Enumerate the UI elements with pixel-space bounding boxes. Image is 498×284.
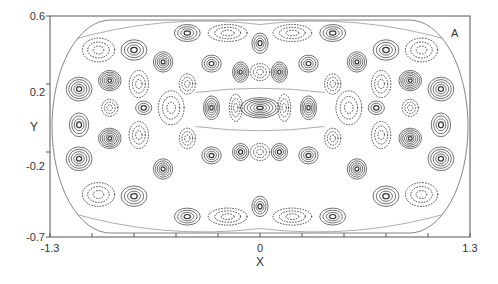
nodal-curve xyxy=(195,88,324,92)
y-tick-label-neg0.2: -0.2 xyxy=(5,161,45,172)
x-tick-label-0: 0 xyxy=(257,243,263,254)
negative-lobe xyxy=(371,70,390,97)
x-axis-ticks xyxy=(50,233,470,237)
positive-lobe xyxy=(203,96,219,120)
negative-lobe xyxy=(179,74,195,94)
nodal-curve xyxy=(66,212,454,232)
positive-lobe xyxy=(299,147,318,164)
negative-lobe xyxy=(336,91,362,125)
y-axis-title: Y xyxy=(30,121,38,133)
negative-lobe xyxy=(82,38,114,62)
negative-lobe xyxy=(129,121,148,148)
negative-lobe xyxy=(208,208,247,225)
positive-lobe xyxy=(300,96,316,120)
positive-lobe xyxy=(373,40,399,60)
positive-lobe xyxy=(153,52,172,72)
positive-lobe xyxy=(399,70,422,90)
positive-lobe xyxy=(233,144,249,161)
negative-lobe xyxy=(405,38,437,62)
negative-lobe xyxy=(325,74,341,94)
positive-lobe xyxy=(431,113,450,137)
y-axis-ticks xyxy=(46,16,50,237)
positive-lobe xyxy=(202,55,221,72)
positive-lobe xyxy=(66,147,92,171)
positive-lobe xyxy=(69,113,88,137)
positive-lobe xyxy=(347,52,366,72)
x-tick-label-neg1.3: -1.3 xyxy=(41,243,60,254)
contour-field xyxy=(66,21,454,232)
nodal-curve xyxy=(195,127,324,131)
negative-lobe xyxy=(325,128,341,148)
y-tick-label-0.2: 0.2 xyxy=(5,87,45,98)
panel-label: A xyxy=(451,28,458,39)
positive-lobe xyxy=(121,186,147,206)
positive-lobe xyxy=(98,128,121,148)
negative-lobe xyxy=(405,183,437,207)
positive-lobe xyxy=(121,40,147,60)
negative-lobe xyxy=(102,99,118,116)
positive-lobe xyxy=(428,147,454,171)
positive-lobe xyxy=(174,208,200,225)
x-axis-title: X xyxy=(256,256,264,268)
contour-figure xyxy=(0,0,498,284)
y-tick-label-neg0.7: -0.7 xyxy=(5,232,45,243)
positive-lobe xyxy=(347,159,366,179)
negative-lobe xyxy=(82,183,114,207)
negative-lobe xyxy=(208,25,247,42)
positive-lobe xyxy=(368,101,384,115)
positive-lobe xyxy=(320,208,346,225)
negative-lobe xyxy=(250,144,269,161)
negative-lobe xyxy=(273,208,312,225)
negative-lobe xyxy=(371,121,390,148)
positive-lobe xyxy=(233,62,249,82)
y-tick-label-0.6: 0.6 xyxy=(5,11,45,22)
negative-lobe xyxy=(250,64,269,81)
negative-lobe xyxy=(179,128,195,148)
positive-lobe xyxy=(271,62,287,82)
negative-lobe xyxy=(273,25,312,42)
negative-lobe xyxy=(229,94,242,121)
negative-lobe xyxy=(402,99,418,116)
positive-lobe xyxy=(202,147,221,164)
negative-lobe xyxy=(158,91,184,125)
positive-lobe xyxy=(399,128,422,148)
positive-lobe xyxy=(252,196,268,216)
negative-lobe xyxy=(129,70,148,97)
positive-lobe xyxy=(428,77,454,101)
positive-lobe xyxy=(174,25,200,42)
positive-lobe xyxy=(241,98,280,118)
positive-lobe xyxy=(252,33,268,53)
x-tick-label-1.3: 1.3 xyxy=(462,243,477,254)
positive-lobe xyxy=(299,55,318,72)
positive-lobe xyxy=(320,25,346,42)
positive-lobe xyxy=(271,144,287,161)
positive-lobe xyxy=(373,186,399,206)
positive-lobe xyxy=(136,101,152,115)
positive-lobe xyxy=(66,77,92,101)
positive-lobe xyxy=(153,159,172,179)
positive-lobe xyxy=(98,70,121,90)
